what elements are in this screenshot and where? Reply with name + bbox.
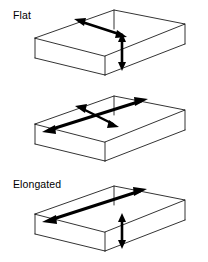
panel-label-flat: Flat	[13, 9, 31, 21]
width-arrow-head-lowerright-elongated	[107, 120, 119, 128]
panel-elongated: Elongated	[0, 86, 208, 172]
thickness-arrow-flat	[118, 33, 126, 71]
box-wireframe-flat	[35, 10, 185, 75]
flat-elongated-box-illustration	[0, 172, 208, 262]
elongated-box-illustration	[0, 86, 208, 172]
top-face-flat	[35, 10, 185, 56]
width-arrow-head-left-flat	[74, 18, 86, 26]
panel-flat-and-elongated: Flat and Elongated	[0, 172, 208, 262]
edge-bottom-front-right-flat	[105, 44, 185, 75]
flat-box-illustration	[0, 0, 208, 86]
edge-bottom-front-left-flat	[35, 58, 105, 75]
figure-canvas: Flat	[0, 0, 208, 262]
top-face-flat-elongated	[35, 186, 185, 232]
length-arrow-head-upperright-elongated	[134, 97, 148, 106]
length-arrow-shaft-flat-elongated	[50, 191, 140, 220]
top-face-elongated	[35, 96, 185, 142]
thickness-arrow-head-top-flat-elongated	[118, 213, 126, 222]
edge-bottom-front-left-flat-elongated	[35, 234, 105, 251]
length-arrow-head-upperright-flat-elongated	[133, 187, 147, 196]
width-arrow-shaft-flat	[79, 21, 122, 35]
panel-flat: Flat	[0, 0, 208, 86]
width-arrow-flat	[74, 18, 127, 38]
width-arrow-head-upperleft-elongated	[75, 104, 87, 113]
edge-bottom-front-right-elongated	[105, 130, 185, 161]
thickness-arrow-head-bottom-flat-elongated	[118, 240, 126, 249]
edge-bottom-front-right-flat-elongated	[105, 220, 185, 251]
edge-bottom-front-left-elongated	[35, 144, 105, 161]
width-arrow-elongated	[75, 104, 119, 128]
